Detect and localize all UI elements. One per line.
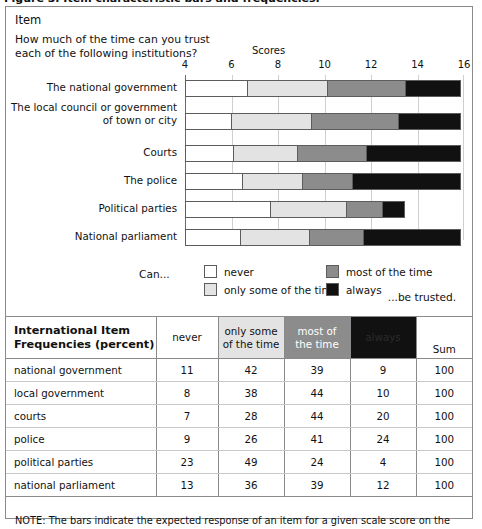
plot-area (185, 75, 464, 240)
row-cell: 28 (218, 405, 284, 428)
bar-row (185, 145, 464, 162)
legend-label-always: always (346, 284, 382, 296)
bar-row (185, 229, 464, 246)
bar-segment-only-some-of-the-time (247, 80, 328, 97)
x-axis-tick-labels: 46810121416 (6, 59, 474, 73)
category-label-line: of town or city (11, 114, 177, 127)
legend-swatch-always (326, 283, 339, 296)
row-cell: 100 (416, 359, 472, 382)
row-cell: 100 (416, 382, 472, 405)
col-header-sum: Sum (416, 317, 472, 359)
bar-segment-never (185, 229, 241, 246)
bar-segment-always (366, 145, 461, 162)
row-cell: 100 (416, 474, 472, 497)
x-tick-10: 10 (318, 59, 331, 70)
legend-prefix: Can... (139, 268, 170, 280)
row-cell: 23 (156, 451, 218, 474)
bar-segment-most-of-the-time (311, 113, 399, 130)
category-label-line: The local council or government (11, 101, 177, 114)
row-cell: 36 (218, 474, 284, 497)
bar-segment-only-some-of-the-time (233, 145, 298, 162)
table-header-row: International Item Frequencies (percent)… (6, 317, 472, 359)
x-tick-14: 14 (411, 59, 424, 70)
legend-swatch-only-some-of-the-time (204, 283, 217, 296)
caption-text: Figure 3. Item characteristic bars and f… (4, 0, 482, 4)
table-row: courts7284420100 (6, 405, 472, 428)
bar-segment-always (363, 229, 461, 246)
bar-row (185, 201, 464, 218)
legend-swatch-never (204, 265, 217, 278)
row-cell: 8 (156, 382, 218, 405)
row-cell: 10 (350, 382, 416, 405)
legend-swatch-most-of-the-time (326, 265, 339, 278)
x-tick-6: 6 (228, 59, 234, 70)
legend-item-most-of-the-time: most of the time (326, 265, 432, 278)
col-header-most-line1: most of (285, 325, 350, 338)
legend-label-never: never (224, 266, 254, 278)
legend-label-only-some-of-the-time: only some of the time (224, 284, 338, 296)
bar-segment-most-of-the-time (297, 145, 367, 162)
category-label: The police (124, 174, 177, 187)
bar-segment-never (185, 201, 271, 218)
legend-item-always: always (326, 283, 382, 296)
bar-segment-never (185, 80, 248, 97)
row-cell: 20 (350, 405, 416, 428)
row-cell: 24 (350, 428, 416, 451)
bar-row (185, 80, 464, 97)
col-header-only-some-of-the-time: only some of the time (218, 317, 284, 359)
bar-segment-most-of-the-time (327, 80, 406, 97)
legend-label-most-of-the-time: most of the time (346, 266, 432, 278)
row-cell: 38 (218, 382, 284, 405)
bar-row (185, 173, 464, 190)
row-label: political parties (6, 451, 156, 474)
figure-note: NOTE: The bars indicate the expected res… (15, 515, 467, 529)
row-cell: 9 (156, 428, 218, 451)
bar-segment-only-some-of-the-time (242, 173, 302, 190)
category-label: Courts (143, 146, 177, 159)
row-cell: 11 (156, 359, 218, 382)
category-label: National parliament (75, 230, 177, 243)
table-body: national government1142399100local gover… (6, 359, 472, 497)
corner-line-1: International Item (14, 324, 156, 338)
frequency-table: International Item Frequencies (percent)… (6, 317, 472, 497)
x-tick-16: 16 (458, 59, 471, 70)
col-header-some-line1: only some (219, 325, 284, 338)
legend-suffix: ...be trusted. (388, 291, 456, 303)
row-cell: 49 (218, 451, 284, 474)
row-label: national parliament (6, 474, 156, 497)
category-label: Political parties (98, 202, 177, 215)
row-cell: 44 (284, 382, 350, 405)
x-tick-8: 8 (275, 59, 281, 70)
corner-line-2: Frequencies (percent) (14, 338, 156, 352)
row-label: local government (6, 382, 156, 405)
bar-segment-most-of-the-time (346, 201, 383, 218)
row-cell: 100 (416, 405, 472, 428)
bar-segment-never (185, 145, 234, 162)
row-cell: 41 (284, 428, 350, 451)
stacked-bar-chart: 46810121416 The national governmentThe l… (6, 7, 474, 247)
col-header-most-line2: the time (285, 338, 350, 351)
row-cell: 24 (284, 451, 350, 474)
row-cell: 7 (156, 405, 218, 428)
x-tick-12: 12 (365, 59, 378, 70)
row-cell: 26 (218, 428, 284, 451)
caption-sliver: Figure 3. Item characteristic bars and f… (0, 0, 482, 5)
table-corner-header: International Item Frequencies (percent) (6, 317, 156, 359)
row-cell: 12 (350, 474, 416, 497)
figure-outer-box: Item How much of the time can you trust … (5, 6, 473, 519)
legend-item-never: never (204, 265, 254, 278)
col-header-most-of-the-time: most of the time (284, 317, 350, 359)
bar-segment-always (352, 173, 461, 190)
bar-segment-most-of-the-time (309, 229, 365, 246)
row-label: courts (6, 405, 156, 428)
category-label: The local council or governmentof town o… (11, 101, 177, 127)
bar-segment-only-some-of-the-time (240, 229, 310, 246)
table-row: political parties2349244100 (6, 451, 472, 474)
row-cell: 13 (156, 474, 218, 497)
x-tick-4: 4 (182, 59, 188, 70)
bar-segment-never (185, 173, 243, 190)
legend-item-only-some-of-the-time: only some of the time (204, 283, 338, 296)
row-label: police (6, 428, 156, 451)
col-header-some-line2: of the time (219, 338, 284, 351)
